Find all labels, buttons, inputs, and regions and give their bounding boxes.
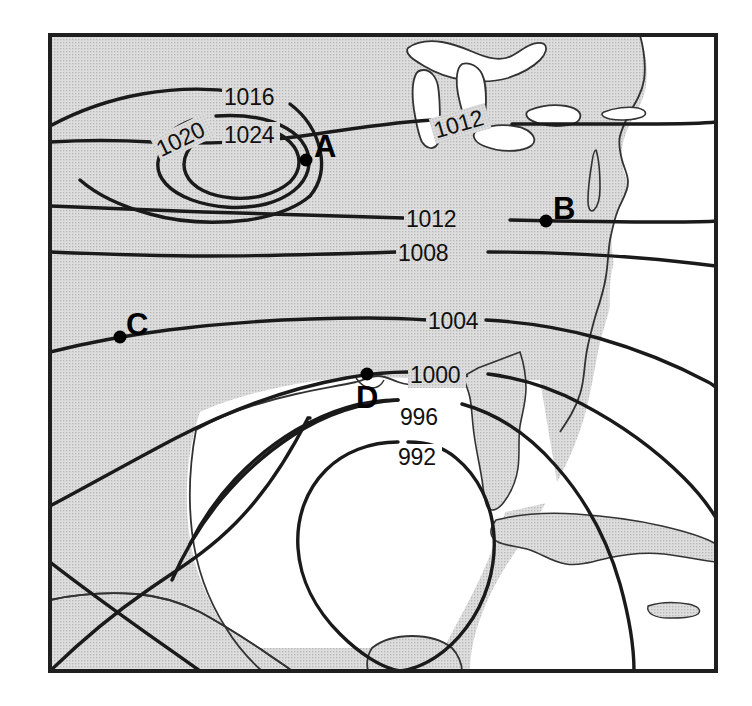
isobar-label-992: 992 [396, 444, 442, 470]
isobar-label-1016-text: 1016 [224, 84, 274, 110]
isobar-label-1016: 1016 [222, 84, 280, 110]
isobar-label-1012-south: 1012 [404, 206, 462, 232]
isobar-label-1000-text: 1000 [410, 362, 460, 388]
isobar-label-1012-south-text: 1012 [406, 206, 456, 232]
isobar-1012-north-right [512, 122, 716, 124]
isobar-label-1000: 1000 [408, 362, 466, 388]
station-dot-a[interactable] [300, 154, 313, 167]
isobar-label-1008: 1008 [396, 240, 454, 266]
isobar-label-996-text: 996 [400, 404, 438, 430]
isobar-label-1008-text: 1008 [398, 240, 448, 266]
isobar-label-1004-text: 1004 [428, 308, 479, 334]
isobar-label-1004: 1004 [426, 308, 484, 334]
isobar-label-1024: 1024 [222, 122, 280, 148]
isobar-label-996: 996 [398, 404, 444, 430]
pressure-contour-map: 1024 1020 1016 1012 1012 [0, 0, 752, 706]
station-label-c: C [126, 307, 148, 342]
weather-map-figure: 1024 1020 1016 1012 1012 [0, 0, 752, 706]
station-label-d: D [356, 380, 378, 415]
isobar-label-992-text: 992 [398, 444, 436, 470]
station-label-b: B [553, 191, 575, 226]
station-label-a: A [314, 129, 336, 164]
isobar-label-1024-text: 1024 [224, 122, 275, 148]
station-dot-d[interactable] [361, 368, 374, 381]
station-dot-b[interactable] [540, 215, 553, 228]
jamaica [648, 603, 700, 618]
station-dot-c[interactable] [114, 331, 127, 344]
